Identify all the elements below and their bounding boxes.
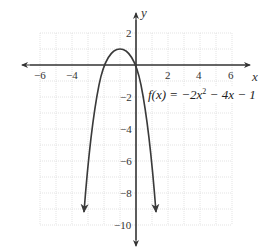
- function-label: f(x) = −2x2 − 4x − 1: [148, 87, 256, 102]
- parabola-left-branch: [84, 49, 120, 212]
- function-prefix: f(x) = −2x: [148, 87, 203, 102]
- function-suffix: − 4x − 1: [206, 87, 255, 102]
- x-tick-label: 2: [165, 69, 171, 81]
- parabola-graph: x y −6 −4 2 4 6 2 −2 −4 −6 −8 −10 f(x) =…: [0, 0, 270, 252]
- x-tick-label: −4: [66, 69, 78, 81]
- x-tick-label: 4: [196, 69, 202, 81]
- y-axis-label: y: [139, 5, 147, 20]
- y-tick-label: −4: [120, 123, 132, 135]
- y-tick-label: −2: [120, 91, 132, 103]
- x-tick-label: 6: [228, 69, 234, 81]
- y-tick-label: −8: [120, 187, 132, 199]
- x-tick-label: −6: [34, 69, 46, 81]
- x-axis-label: x: [251, 69, 258, 84]
- y-tick-label: 2: [126, 27, 132, 39]
- y-tick-label: −10: [114, 219, 132, 231]
- y-tick-label: −6: [120, 155, 132, 167]
